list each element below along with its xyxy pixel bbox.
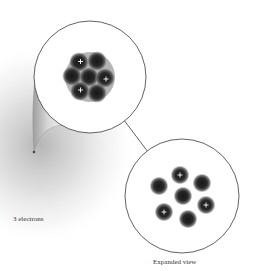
expanded-view-label: Expanded view: [153, 258, 196, 266]
nucleus-dot: [33, 151, 36, 154]
neutron: [193, 174, 212, 193]
diagram-canvas: [0, 0, 253, 271]
neutron: [179, 210, 198, 229]
neutron: [150, 177, 169, 196]
expanded-view-circle: [125, 139, 239, 253]
particle: [87, 83, 107, 103]
particle: [70, 81, 90, 101]
atom-diagram: 3 electrons Expanded view: [0, 0, 253, 271]
neutron: [174, 187, 193, 206]
electrons-label: 3 electrons: [13, 215, 44, 223]
nucleus-closeup-circle: [34, 21, 146, 133]
